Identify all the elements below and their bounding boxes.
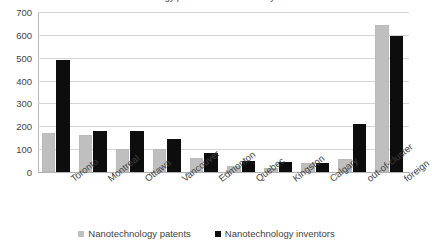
bar-group [38, 12, 75, 172]
bar-group [335, 12, 372, 172]
x-axis-label-calgary: Calgary [328, 176, 334, 184]
bar-group [298, 12, 335, 172]
legend-label: Nanotechnology inventors [225, 228, 335, 239]
x-axis-label-ottawa: Ottawa [143, 176, 149, 184]
x-axis-label-quebec: Quebec [254, 176, 260, 184]
chart-legend: Nanotechnology patentsNanotechnology inv… [0, 228, 413, 244]
legend-swatch-icon [78, 231, 84, 237]
bar-group [149, 12, 186, 172]
bar-group [224, 12, 261, 172]
chart-title: Nanotechnology patents and inventors by … [0, 0, 413, 2]
x-axis-label-edmonton: Edmonton [217, 176, 223, 184]
x-axis-label-kingston: Kingston [291, 176, 297, 184]
bar-toronto-patents [42, 133, 56, 172]
x-axis-labels: TorontoMontrealOttawaVancouverEdmontonQu… [38, 176, 409, 222]
y-axis-tick-label: 100 [2, 145, 32, 154]
bar-group [186, 12, 223, 172]
x-axis-label-out-of-cluster: out-of-cluster [365, 176, 371, 184]
legend-entry[interactable]: Nanotechnology patents [78, 228, 190, 239]
x-axis-label-vancouver: Vancouver [180, 176, 186, 184]
bar-group [261, 12, 298, 172]
y-axis-tick-label: 300 [2, 99, 32, 108]
y-axis-tick-label: 600 [2, 31, 32, 40]
legend-label: Nanotechnology patents [88, 228, 190, 239]
x-axis-label-toronto: Toronto [69, 176, 75, 184]
y-axis-tick-label: 0 [2, 168, 32, 177]
x-axis-label-montreal: Montreal [106, 176, 112, 184]
y-axis-tick-label: 500 [2, 54, 32, 63]
plot-area [38, 12, 409, 172]
bar-toronto-inventors [56, 60, 70, 172]
bar-foreign-patents [375, 25, 389, 172]
y-axis-tick-label: 400 [2, 77, 32, 86]
legend-entry[interactable]: Nanotechnology inventors [215, 228, 335, 239]
x-axis-label-foreign: foreign [402, 176, 408, 184]
bar-group [75, 12, 112, 172]
bar-group [112, 12, 149, 172]
y-axis-tick-label: 700 [2, 8, 32, 17]
legend-swatch-icon [215, 231, 221, 237]
y-axis-tick-label: 200 [2, 122, 32, 131]
